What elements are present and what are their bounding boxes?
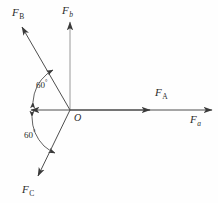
angle-lower-label: 60° — [24, 129, 35, 140]
force-b-vector — [22, 27, 70, 110]
angle-upper-label: 60° — [36, 79, 47, 90]
force-vector-diagram: FB Fb FA Fa FC O 60° 60° — [0, 0, 218, 203]
force-b-label: FB — [12, 7, 24, 18]
vertical-axis-label: Fb — [62, 5, 72, 16]
origin-label: O — [74, 113, 81, 123]
diagram-canvas — [0, 0, 218, 203]
force-c-vector — [38, 110, 70, 176]
force-c-label: FC — [22, 184, 34, 195]
force-a-label: FA — [155, 87, 167, 98]
horizontal-axis-label: Fa — [190, 114, 200, 125]
